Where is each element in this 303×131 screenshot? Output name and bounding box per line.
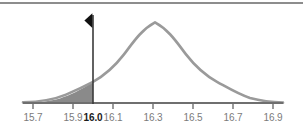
tick-label-16-3: 16.3 (138, 112, 168, 123)
tick-label-15-7: 15.7 (18, 112, 48, 123)
normal-curve (23, 22, 283, 102)
normal-distribution-chart: 15.7 15.9 16.0 16.1 16.3 16.5 16.7 16.9 (0, 0, 303, 131)
tick-label-16-5: 16.5 (178, 112, 208, 123)
shaded-left-tail-area (23, 82, 93, 103)
tick-label-16-7: 16.7 (218, 112, 248, 123)
tick-label-16-9: 16.9 (258, 112, 288, 123)
left-arrow-icon (84, 13, 92, 28)
tick-label-16-1: 16.1 (98, 112, 128, 123)
